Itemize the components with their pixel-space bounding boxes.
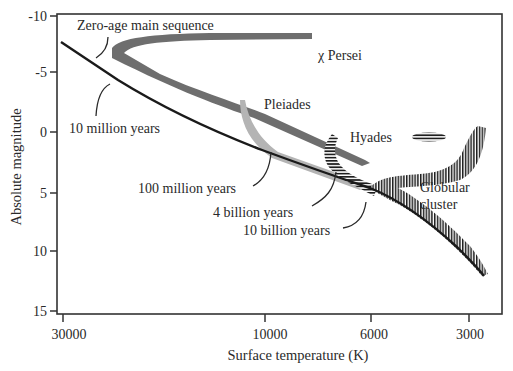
- hr-diagram-chart: -10 -5 0 5 10 15 Absolute magnitude 3000…: [0, 0, 513, 371]
- label-10-billion-years: 10 billion years: [243, 223, 330, 238]
- label-100-million-years: 100 million years: [138, 181, 236, 196]
- y-axis-label: Absolute magnitude: [8, 108, 24, 225]
- label-hyades: Hyades: [350, 130, 392, 145]
- y-axis: -10 -5 0 5 10 15 Absolute magnitude: [8, 9, 57, 319]
- hyades-giants-clump: [412, 133, 446, 142]
- label-zams: Zero-age main sequence: [77, 18, 214, 33]
- label-chi-persei: χ Persei: [317, 48, 362, 63]
- x-tick-label: 6000: [360, 327, 388, 342]
- y-tick-label: -5: [35, 65, 47, 80]
- y-tick-label: 15: [33, 304, 47, 319]
- label-pleiades: Pleiades: [264, 97, 311, 112]
- x-tick-label: 10000: [253, 327, 288, 342]
- y-tick-label: 5: [40, 186, 47, 201]
- label-cluster: cluster: [420, 197, 458, 212]
- y-tick-label: -10: [28, 9, 47, 24]
- x-axis-label: Surface temperature (K): [228, 347, 369, 364]
- y-tick-label: 0: [40, 125, 47, 140]
- zams-line: [61, 42, 484, 276]
- x-axis: 30000 10000 6000 3000 Surface temperatur…: [52, 314, 485, 364]
- label-10-million-years: 10 million years: [69, 121, 160, 136]
- label-globular: Globular: [420, 180, 470, 195]
- x-tick-label: 3000: [456, 327, 484, 342]
- label-4-billion-years: 4 billion years: [213, 205, 293, 220]
- y-tick-label: 10: [33, 244, 47, 259]
- x-tick-label: 30000: [52, 327, 87, 342]
